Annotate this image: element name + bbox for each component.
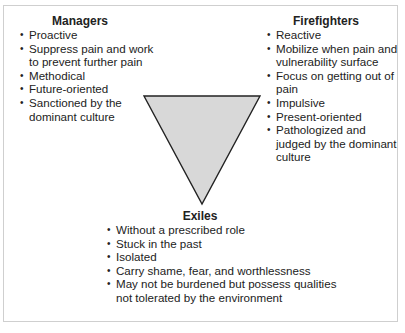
list-item: May not be burdened but possess qualitie… [107,277,347,304]
exiles-list: Without a prescribed role Stuck in the p… [107,223,347,305]
list-item: Focus on getting out of pain [267,69,402,96]
list-item: Isolated [107,250,347,264]
exiles-group: Exiles Without a prescribed role Stuck i… [107,209,347,305]
list-item: Sanctioned by the dominant culture [20,96,155,123]
firefighters-group: Firefighters Reactive Mobilize when pain… [267,14,402,164]
firefighters-list: Reactive Mobilize when pain and vulnerab… [267,28,402,164]
list-item: Methodical [20,69,155,83]
list-item: Impulsive [267,96,402,110]
list-item: Without a prescribed role [107,223,347,237]
list-item: Present-oriented [267,110,402,124]
exiles-title: Exiles [107,209,293,223]
firefighters-title: Firefighters [267,14,385,28]
managers-list: Proactive Suppress pain and work to prev… [20,28,155,123]
list-item: Reactive [267,28,402,42]
list-item: Future-oriented [20,82,155,96]
list-item: Pathologized and judged by the dominant … [267,123,402,164]
list-item: Carry shame, fear, and worthlessness [107,264,347,278]
list-item: Mobilize when pain and vulnerability sur… [267,42,402,69]
list-item: Proactive [20,28,155,42]
managers-title: Managers [20,14,140,28]
list-item: Stuck in the past [107,237,347,251]
managers-group: Managers Proactive Suppress pain and wor… [20,14,155,123]
list-item: Suppress pain and work to prevent furthe… [20,42,155,69]
